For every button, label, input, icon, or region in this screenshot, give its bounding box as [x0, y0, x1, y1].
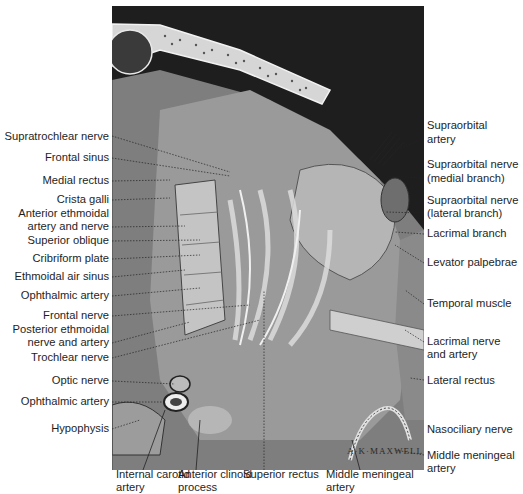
label-supraorbital-nerve-lateral-1: Supraorbital nerve	[427, 194, 518, 207]
label-ophthalmic-artery-lower: Ophthalmic artery	[21, 395, 109, 408]
anterior-clinoid	[188, 406, 232, 434]
label-cribriform-plate: Cribriform plate	[33, 252, 109, 265]
lacrimal-gland	[381, 178, 409, 222]
label-anterior-clinoid-2: process	[178, 481, 217, 494]
label-supraorbital-nerve-medial-2: (medial branch)	[427, 172, 505, 185]
label-optic-nerve: Optic nerve	[52, 374, 109, 387]
label-supraorbital-artery-1: Supraorbital	[427, 119, 487, 132]
label-frontal-sinus: Frontal sinus	[45, 151, 109, 164]
label-superior-oblique: Superior oblique	[28, 234, 109, 247]
label-nasociliary-nerve: Nasociliary nerve	[427, 423, 513, 436]
label-middle-meningeal-bottom-2: artery	[326, 481, 355, 494]
label-middle-meningeal-right-2: artery	[427, 462, 456, 475]
label-anterior-clinoid-1: Anterior clinoid	[178, 468, 252, 481]
label-ethmoidal-air-sinus: Ethmoidal air sinus	[14, 270, 109, 283]
label-posterior-ethmoidal-1: Posterior ethmoidal	[13, 323, 109, 336]
label-levator-palpebrae: Levator palpebrae	[427, 256, 517, 269]
label-lateral-rectus: Lateral rectus	[427, 374, 495, 387]
label-hypophysis: Hypophysis	[51, 422, 109, 435]
label-posterior-ethmoidal-2: nerve and artery	[28, 336, 109, 349]
label-anterior-ethmoidal-1: Anterior ethmoidal	[18, 207, 109, 220]
label-supraorbital-nerve-lateral-2: (lateral branch)	[427, 207, 502, 220]
orbit-anatomy-illustration	[112, 6, 424, 470]
label-frontal-nerve: Frontal nerve	[43, 309, 109, 322]
label-ophthalmic-artery-upper: Ophthalmic artery	[21, 289, 109, 302]
label-middle-meningeal-bottom-1: Middle meningeal	[326, 468, 414, 481]
label-crista-galli: Crista galli	[57, 193, 109, 206]
frontal-sinus-cavity	[112, 30, 152, 74]
label-medial-rectus: Medial rectus	[42, 174, 109, 187]
label-supratrochlear-nerve: Supratrochlear nerve	[5, 130, 109, 143]
label-superior-rectus: Superior rectus	[243, 468, 319, 481]
label-lacrimal-nerve-artery-1: Lacrimal nerve	[427, 335, 500, 348]
label-lacrimal-nerve-artery-2: and artery	[427, 348, 477, 361]
label-trochlear-nerve: Trochlear nerve	[31, 351, 109, 364]
label-anterior-ethmoidal-2: artery and nerve	[28, 220, 109, 233]
label-supraorbital-artery-2: artery	[427, 133, 456, 146]
artist-signature: A·K·MAXWELL	[347, 446, 423, 456]
label-internal-carotid-2: artery	[116, 481, 145, 494]
label-temporal-muscle: Temporal muscle	[427, 297, 512, 310]
label-middle-meningeal-right-1: Middle meningeal	[427, 449, 515, 462]
label-lacrimal-branch: Lacrimal branch	[427, 227, 507, 240]
label-supraorbital-nerve-medial-1: Supraorbital nerve	[427, 158, 518, 171]
